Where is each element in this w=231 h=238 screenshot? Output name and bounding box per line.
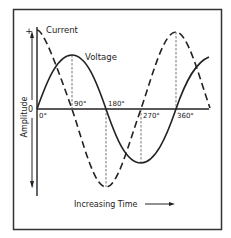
right-arrow-icon (145, 202, 175, 206)
phase-diagram: + 0 − Amplitude 0° 90° 180° 270° 360° Cu… (0, 0, 231, 238)
amplitude-label: Amplitude (20, 96, 29, 137)
current-label: Current (46, 25, 79, 35)
plus-label: + (25, 26, 33, 36)
tick-0: 0° (39, 112, 47, 120)
tick-90: 90° (74, 100, 86, 108)
time-label: Increasing Time (74, 200, 138, 209)
tick-180: 180° (108, 100, 125, 108)
tick-270: 270° (143, 112, 160, 120)
tick-360: 360° (177, 112, 194, 120)
minus-label: − (28, 182, 37, 189)
voltage-label: Voltage (85, 52, 117, 62)
